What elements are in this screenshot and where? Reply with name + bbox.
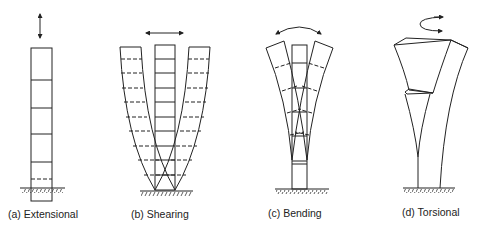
panel-bending: [266, 27, 333, 194]
caption-shearing: (b) Shearing: [131, 208, 189, 220]
panel-shearing: [120, 33, 210, 196]
panel-torsional: [394, 17, 468, 193]
caption-torsional: (d) Torsional: [402, 206, 460, 218]
deformation-modes-diagram: [0, 0, 484, 238]
panel-extensional: [20, 14, 65, 201]
rotation-arrow-icon: [420, 17, 442, 31]
column: [31, 48, 52, 201]
curved-arrow-icon: [276, 27, 321, 34]
caption-bending: (c) Bending: [268, 207, 322, 219]
caption-extensional: (a) Extensional: [8, 208, 78, 220]
